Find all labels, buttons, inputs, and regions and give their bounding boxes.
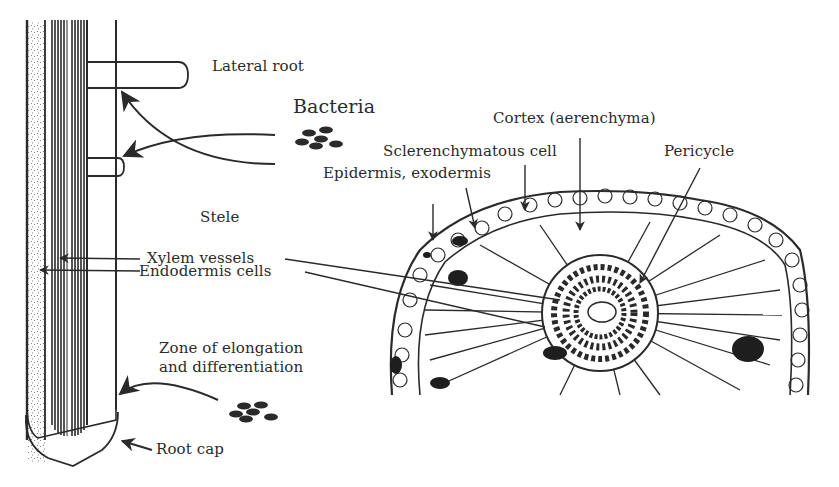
label-zone-line1: Zone of elongation: [159, 340, 303, 357]
bacteria-cluster-bottom: [229, 402, 278, 423]
label-endodermis-cells: Endodermis cells: [139, 263, 272, 280]
bacteria-cluster-top: [295, 127, 343, 150]
label-lateral-root: Lateral root: [212, 58, 304, 75]
label-pericycle: Pericycle: [664, 143, 734, 160]
label-sclerenchymatous-cell: Sclerenchymatous cell: [383, 143, 557, 160]
lateral-root-small: [88, 158, 124, 176]
pith: [588, 302, 616, 322]
root-longitudinal-section: [26, 20, 188, 466]
label-bacteria: Bacteria: [293, 96, 375, 117]
lateral-root-large: [88, 62, 188, 88]
label-epidermis-exodermis: Epidermis, exodermis: [323, 165, 491, 182]
label-root-cap: Root cap: [156, 441, 224, 458]
root-cross-section: [390, 189, 809, 395]
label-zone-line2: and differentiation: [159, 359, 303, 376]
epidermis-band: [27, 22, 45, 462]
label-stele: Stele: [200, 209, 239, 226]
diagram-canvas: [0, 0, 839, 487]
root-diagram-figure: Lateral root Bacteria Cortex (aerenchyma…: [0, 0, 839, 487]
stele-lines: [52, 20, 87, 436]
label-cortex: Cortex (aerenchyma): [493, 110, 656, 127]
